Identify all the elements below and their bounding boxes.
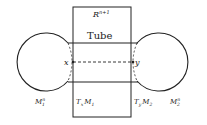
connected-sum-diagram: Rn+1 Tube x y Mn1 Mn2 TxM1 TyM2 [0, 0, 207, 125]
tangent-space-2-label: TyM2 [134, 98, 152, 107]
space-label: Rn+1 [92, 9, 110, 19]
point-y-label: y [134, 58, 140, 67]
manifold-2-label: Mn2 [169, 97, 180, 107]
point-x-dot [72, 61, 75, 64]
ambient-space-box [73, 7, 131, 117]
point-y-dot [132, 61, 135, 64]
manifold-1-circle [17, 33, 68, 91]
point-x-label: x [64, 58, 69, 67]
manifold-1-dashed-arc [68, 43, 72, 81]
tube-label: Tube [87, 30, 113, 41]
manifold-2-circle [137, 33, 188, 91]
manifold-1-label: Mn1 [34, 97, 45, 107]
tangent-space-1-label: TxM1 [76, 98, 94, 107]
